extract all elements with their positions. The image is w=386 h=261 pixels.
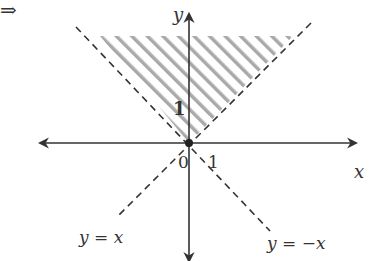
x-tick-label: 1 [208, 152, 219, 172]
line-label-y-equals-neg-x: y = −x [266, 233, 326, 253]
x-axis-label: x [354, 161, 364, 182]
origin-point [185, 139, 193, 147]
implies-symbol: ⇒ [0, 0, 17, 22]
y-axis-label: y [172, 4, 184, 25]
shaded-region [90, 30, 300, 150]
origin-label: 0 [178, 152, 189, 172]
line-label-y-equals-x: y = x [78, 227, 124, 247]
coordinate-diagram: ⇒ y x 0 1 1 y = x y = −x [0, 0, 386, 261]
y-tick-label: 1 [173, 98, 186, 119]
